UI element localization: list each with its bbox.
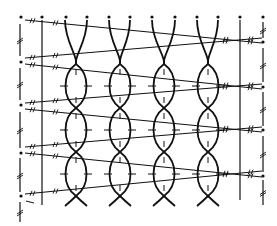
anchor-dots [19, 15, 264, 197]
anchor-dot [19, 60, 22, 63]
weft-thread [25, 20, 262, 43]
anchor-dot [19, 194, 22, 197]
anchor-dot [19, 15, 22, 18]
anchor-dot [261, 128, 264, 131]
cord-strand [109, 196, 120, 206]
anchor-dot [107, 15, 110, 18]
anchor-dot [261, 40, 264, 43]
anchor-dot [261, 15, 264, 18]
anchor-dot [238, 15, 241, 18]
cord-strand [65, 20, 76, 64]
cord-strand [120, 20, 130, 64]
weft-thread [25, 64, 262, 89]
cord-strand [197, 20, 208, 64]
twined-cord-diagram [0, 0, 277, 226]
anchor-dot [150, 15, 153, 18]
anchor-dot [216, 15, 219, 18]
cord-strand [208, 196, 219, 206]
cord-strand [164, 20, 175, 64]
anchor-dot [40, 15, 43, 18]
cord-strand [76, 20, 87, 64]
anchor-dot [64, 15, 67, 18]
cord-strand [153, 196, 164, 206]
cord-strand [197, 196, 208, 206]
anchor-dot [261, 85, 264, 88]
weft-thread [25, 153, 262, 177]
anchor-dot [195, 15, 198, 18]
anchor-dot [85, 15, 88, 18]
weft-threads [25, 20, 262, 194]
cord-strand [152, 20, 164, 64]
bottom-left-mark [26, 201, 34, 203]
anchor-dot [19, 103, 22, 106]
cord-strand [120, 196, 131, 206]
anchor-dot [261, 174, 264, 177]
anchor-dot [128, 15, 131, 18]
cord-strand [109, 20, 120, 64]
diagram-svg [0, 0, 277, 226]
anchor-dot [19, 151, 22, 154]
cord-strand [65, 196, 76, 206]
cord-strand [76, 196, 87, 206]
cord-strand [164, 196, 175, 206]
anchor-dot [173, 15, 176, 18]
weft-thread [25, 109, 262, 132]
